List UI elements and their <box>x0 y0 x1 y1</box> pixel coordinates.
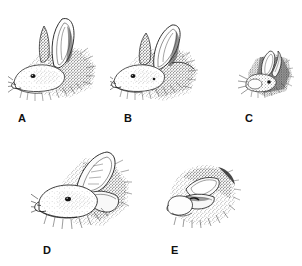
illustration-panel-d <box>31 140 137 238</box>
illustration-panel-e <box>160 155 242 237</box>
panel-label-d: D <box>43 244 51 256</box>
panel-label-a: A <box>18 112 26 124</box>
rabbit-head-drawing-d <box>31 152 132 229</box>
illustration-panel-c <box>238 45 296 103</box>
figure-plate: A <box>0 0 302 266</box>
rabbit-head-drawing-a <box>8 19 96 101</box>
panel-label-c: C <box>245 112 253 124</box>
panel-label-e: E <box>171 244 178 256</box>
panel-label-b: B <box>124 112 132 124</box>
rabbit-head-drawing-c <box>238 51 294 98</box>
rabbit-head-drawing-e <box>167 165 241 228</box>
illustration-panel-b <box>110 15 202 105</box>
illustration-panel-a <box>8 10 104 108</box>
rabbit-head-drawing-b <box>110 25 198 101</box>
